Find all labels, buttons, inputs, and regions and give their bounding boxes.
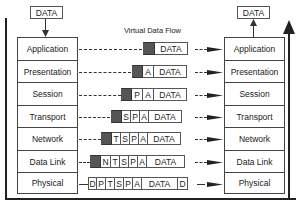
- packet-cell: D: [178, 177, 188, 190]
- packet-cell: P: [124, 177, 133, 190]
- sender-layer-physical: Physical: [17, 173, 78, 194]
- packet-cell: P: [131, 110, 140, 123]
- packet-data-cell: DATA: [147, 155, 185, 168]
- presentation-header: [132, 65, 143, 78]
- packet-cell: S: [122, 110, 131, 123]
- packet-cell: A: [133, 177, 142, 190]
- virtual-link-transport-right: [195, 117, 207, 118]
- right-arrow-icon: [207, 114, 223, 121]
- session-header: [121, 88, 132, 101]
- packet-cell: N: [101, 155, 111, 168]
- sender-layer-presentation: Presentation: [17, 61, 78, 83]
- virtual-link-application-right: [195, 49, 207, 50]
- packet-data-cell: DATA: [149, 110, 182, 123]
- packet-data-cell: DATA: [154, 88, 187, 101]
- receiver-layer-presentation: Presentation: [224, 61, 285, 83]
- packet-transport: S P A DATA: [111, 110, 182, 123]
- virtual-flow-title: Virtual Data Flow: [124, 26, 181, 35]
- sender-layer-session: Session: [17, 83, 78, 106]
- packet-cell: A: [143, 65, 154, 78]
- up-arrow-icon: [283, 20, 295, 34]
- receiver-layer-application: Application: [224, 37, 285, 61]
- virtual-link-session-right: [195, 95, 207, 96]
- virtual-link-data-link: [79, 162, 90, 163]
- packet-data-link: N T S P A DATA: [90, 155, 185, 168]
- packet-cell: A: [138, 155, 147, 168]
- packet-cell: A: [143, 88, 154, 101]
- network-header: [101, 132, 112, 145]
- virtual-link-data-link-right: [195, 162, 207, 163]
- right-arrow-icon: [207, 92, 223, 99]
- virtual-link-network: [79, 139, 101, 140]
- virtual-link-transport: [79, 117, 110, 118]
- application-header: [143, 42, 155, 55]
- packet-cell: A: [140, 110, 149, 123]
- sender-layer-data-link: Data Link: [17, 151, 78, 173]
- source-data-box: DATA: [30, 6, 63, 19]
- packet-data-cell: DATA: [154, 65, 187, 78]
- destination-data-box: DATA: [237, 6, 270, 19]
- physical-link-left: [79, 184, 88, 185]
- virtual-link-presentation-right: [195, 72, 207, 73]
- receiver-layer-session: Session: [224, 83, 285, 106]
- packet-cell: S: [121, 132, 130, 145]
- packet-data-cell: DATA: [142, 177, 178, 190]
- sender-layer-transport: Transport: [17, 106, 78, 128]
- right-arrow-icon: [207, 69, 223, 76]
- virtual-link-network-right: [195, 139, 207, 140]
- packet-application: DATA: [143, 42, 188, 55]
- virtual-link-application: [79, 49, 142, 50]
- receiver-layer-transport: Transport: [224, 106, 285, 128]
- right-arrow-icon: [207, 159, 223, 166]
- packet-cell: A: [139, 132, 148, 145]
- right-arrow-icon: [207, 181, 223, 188]
- receiver-layer-physical: Physical: [224, 173, 285, 194]
- data-link-header: [90, 155, 101, 168]
- packet-physical: D P T S P A DATA D: [88, 177, 188, 190]
- packet-cell: P: [97, 177, 106, 190]
- packet-cell: P: [129, 155, 138, 168]
- packet-cell: T: [106, 177, 115, 190]
- small-up-arrow-icon: [250, 19, 257, 26]
- frame-left-line: [5, 18, 7, 200]
- packet-cell: S: [120, 155, 129, 168]
- packet-cell: T: [111, 155, 120, 168]
- packet-cell: D: [88, 177, 97, 190]
- packet-cell: T: [112, 132, 121, 145]
- sender-layer-network: Network: [17, 128, 78, 151]
- transport-header: [111, 110, 122, 123]
- frame-bottom-line: [5, 198, 296, 200]
- right-arrow-icon: [207, 136, 223, 143]
- down-arrow-icon: [42, 30, 49, 37]
- receiver-layer-network: Network: [224, 128, 285, 151]
- packet-network: T S P A DATA: [101, 132, 181, 145]
- packet-presentation: A DATA: [132, 65, 187, 78]
- virtual-link-session: [79, 95, 121, 96]
- frame-right-line: [288, 30, 290, 200]
- physical-link-right: [197, 184, 205, 185]
- right-arrow-icon: [207, 46, 223, 53]
- packet-session: P A DATA: [121, 88, 187, 101]
- sender-layer-application: Application: [17, 37, 78, 61]
- packet-cell: S: [115, 177, 124, 190]
- packet-data-cell: DATA: [148, 132, 181, 145]
- receiver-layer-data-link: Data Link: [224, 151, 285, 173]
- virtual-link-presentation: [79, 72, 131, 73]
- packet-data-cell: DATA: [155, 42, 188, 55]
- packet-cell: P: [130, 132, 139, 145]
- packet-cell: P: [132, 88, 143, 101]
